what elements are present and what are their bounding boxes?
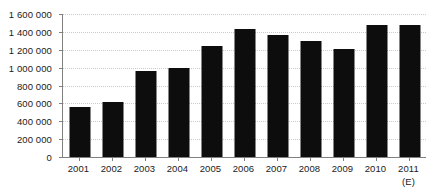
bar[interactable] xyxy=(300,41,321,157)
x-tick-mark xyxy=(178,157,179,161)
y-tick-label: 1 200 000 xyxy=(9,44,52,55)
y-tick-label: 200 000 xyxy=(17,134,52,145)
x-tick-label: 2005 xyxy=(194,163,227,174)
x-tick-label: 2002 xyxy=(95,163,128,174)
y-tick-label: 600 000 xyxy=(17,98,52,109)
x-tick-mark xyxy=(79,157,80,161)
bar[interactable] xyxy=(168,68,189,157)
bar[interactable] xyxy=(234,29,255,157)
bar[interactable] xyxy=(267,35,288,157)
bar[interactable] xyxy=(333,49,354,157)
y-axis: 0200 000400 000600 000800 0001 000 0001 … xyxy=(0,0,55,196)
bar-slot xyxy=(294,14,327,157)
x-tick-label: 2011 xyxy=(392,163,425,174)
bar-slot xyxy=(162,14,195,157)
bar-slot xyxy=(63,14,96,157)
x-tick-label: 2007 xyxy=(260,163,293,174)
bar[interactable] xyxy=(69,107,90,157)
y-tick-label: 1 000 000 xyxy=(9,62,52,73)
x-tick-mark xyxy=(409,157,410,161)
bar-slot xyxy=(195,14,228,157)
bar[interactable] xyxy=(201,46,222,157)
y-tick-label: 800 000 xyxy=(17,80,52,91)
bar-chart: 0200 000400 000600 000800 0001 000 0001 … xyxy=(0,0,435,196)
x-axis: 2001200220032004200520062007200820092010… xyxy=(62,158,425,196)
x-tick-mark xyxy=(343,157,344,161)
x-tick-mark xyxy=(145,157,146,161)
bar-slot xyxy=(129,14,162,157)
bar-slot xyxy=(228,14,261,157)
bar[interactable] xyxy=(102,102,123,157)
x-tick-mark xyxy=(211,157,212,161)
y-tick-label: 400 000 xyxy=(17,116,52,127)
x-tick-mark xyxy=(277,157,278,161)
bar-slot xyxy=(393,14,426,157)
bar-slot xyxy=(96,14,129,157)
bar[interactable] xyxy=(399,25,420,157)
bar-slot xyxy=(360,14,393,157)
x-sub-label-estimate: (E) xyxy=(392,176,425,187)
x-tick-mark xyxy=(244,157,245,161)
x-tick-mark xyxy=(376,157,377,161)
x-tick-label: 2006 xyxy=(227,163,260,174)
x-tick-label: 2010 xyxy=(359,163,392,174)
x-tick-label: 2009 xyxy=(326,163,359,174)
x-tick-label: 2004 xyxy=(161,163,194,174)
y-tick-label: 1 400 000 xyxy=(9,26,52,37)
y-tick-label: 0 xyxy=(47,152,52,163)
x-tick-mark xyxy=(310,157,311,161)
x-tick-label: 2008 xyxy=(293,163,326,174)
x-tick-label: 2001 xyxy=(62,163,95,174)
plot-area xyxy=(62,14,426,158)
x-tick-label: 2003 xyxy=(128,163,161,174)
x-tick-mark xyxy=(112,157,113,161)
y-tick-label: 1 600 000 xyxy=(9,9,52,20)
bars-layer xyxy=(63,14,426,157)
bar-slot xyxy=(327,14,360,157)
bar[interactable] xyxy=(366,25,387,157)
bar[interactable] xyxy=(135,71,156,157)
bar-slot xyxy=(261,14,294,157)
